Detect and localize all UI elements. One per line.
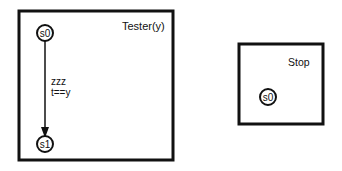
process-tester: Tester(y) zzz t==y s0 s1 [19, 11, 173, 160]
diagram-canvas: Tester(y) zzz t==y s0 s1 Stop s0 [0, 0, 342, 171]
process-title-stop: Stop [288, 56, 310, 68]
state-label: s1 [40, 139, 51, 150]
process-stop: Stop s0 [239, 44, 323, 124]
transition-label-action: zzz [51, 76, 66, 87]
state-label: s0 [263, 92, 274, 103]
process-box-stop [239, 44, 323, 124]
state-s1-tester: s1 [37, 136, 53, 152]
process-title-tester: Tester(y) [122, 20, 165, 32]
transition-label-guard: t==y [51, 87, 70, 98]
state-label: s0 [40, 28, 51, 39]
state-s0-stop: s0 [260, 89, 276, 105]
state-s0-tester: s0 [37, 25, 53, 41]
